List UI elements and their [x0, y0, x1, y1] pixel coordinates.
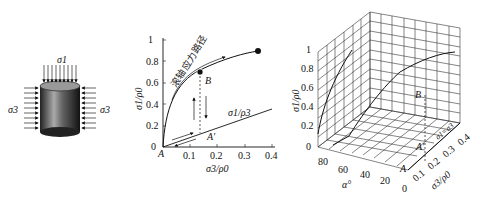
alpha-tick-40: 40: [360, 169, 370, 180]
stress-path-chart: 1 0.8 0.6 0.4 0.2 0 0.1 0.2 0.3 0.4 σ3/ρ…: [133, 32, 278, 174]
y-tick-0.2: 0.2: [146, 120, 159, 131]
x-tick-0.3: 0.3: [440, 143, 457, 159]
y-tick-0.6: 0.6: [146, 77, 159, 88]
cylinder-diagram: σ1 σ3 σ3: [8, 54, 110, 137]
alpha-tick-80: 80: [318, 156, 328, 167]
z-tick-0.4: 0.4: [301, 101, 314, 112]
y-tick-1: 1: [148, 34, 153, 45]
alpha-tick-20: 20: [380, 175, 390, 186]
x-axis-label: σ3/ρ0: [206, 163, 229, 174]
y-tick-0.8: 0.8: [146, 56, 159, 67]
x-tick-0.1: 0.1: [410, 167, 427, 183]
y-tick-0: 0: [151, 141, 156, 152]
alpha-tick-0: 0: [402, 183, 407, 194]
x-tick-0.4: 0.4: [455, 131, 472, 147]
x-tick-0.1: 0.1: [183, 150, 196, 161]
curve-label: 滚轴应力路径: [168, 32, 209, 89]
y-axis-label: σ1/ρ0: [133, 87, 144, 110]
3d-curves: [318, 50, 460, 170]
z-tick-0.8: 0.8: [301, 63, 314, 74]
x-axis-label: σ3/ρ0: [428, 169, 452, 192]
point-a-label: A: [157, 148, 165, 159]
point-b-label: B: [415, 89, 421, 100]
y-tick-0.4: 0.4: [146, 99, 159, 110]
alpha-axis-label: α°: [342, 179, 351, 190]
sigma3-left-label: σ3: [8, 104, 18, 115]
x-tick-0.4: 0.4: [265, 150, 278, 161]
z-tick-1: 1: [306, 44, 311, 55]
z-tick-0.6: 0.6: [301, 82, 314, 93]
x-tick-0.2: 0.2: [425, 155, 442, 171]
point-a-prime-label: A′: [206, 131, 216, 142]
x-tick-0.3: 0.3: [238, 150, 251, 161]
z-tick-0.2: 0.2: [301, 120, 314, 131]
3d-stress-chart: [318, 12, 460, 170]
z-axis-label: σ1/ρ0: [290, 89, 301, 112]
line-label: σ1=σ3: [434, 121, 456, 142]
z-tick-0: 0: [306, 141, 311, 152]
figure-canvas: σ1 σ3 σ3 1 0.8 0.6 0.4 0.2 0 0.1 0.2 0.3…: [0, 0, 482, 205]
point-b-marker: [197, 69, 203, 75]
end-point-marker: [255, 48, 261, 54]
sigma1-label: σ1: [57, 54, 67, 65]
line-label: σ1/ρ3: [228, 107, 251, 118]
sigma3-right-label: σ3: [100, 104, 110, 115]
point-a-prime-label: A′: [415, 141, 425, 152]
point-b-label: B: [205, 75, 211, 86]
point-a-label: A: [399, 163, 407, 174]
alpha-tick-60: 60: [338, 164, 348, 175]
x-tick-0.2: 0.2: [210, 150, 223, 161]
